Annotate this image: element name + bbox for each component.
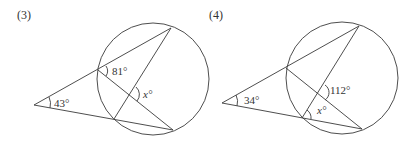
figure-3-unknown-angle: x° [142, 88, 153, 100]
figure-3: (3) 43° 81° x° [17, 8, 209, 135]
figure-4-chord-a [286, 68, 362, 129]
figure-4-external-angle-arc [236, 95, 238, 106]
figure-4-label: (4) [209, 8, 223, 22]
figure-4: (4) 34° 112° x° [209, 8, 398, 134]
figure-3-upper-angle-arc [106, 66, 108, 76]
figure-3-x-angle-arc [136, 87, 139, 101]
figure-3-circle [97, 23, 209, 135]
figure-3-upper-angle: 81° [112, 65, 127, 77]
figure-3-external-angle: 43° [54, 97, 69, 109]
figure-4-unknown-angle: x° [316, 104, 327, 116]
figure-4-external-angle: 34° [244, 94, 259, 106]
figure-3-chord-a [98, 70, 173, 130]
figure-4-intersection-angle-arc [325, 85, 329, 100]
figure-4-x-angle-arc [307, 110, 311, 119]
figure-4-lower-secant [222, 103, 362, 129]
figure-4-intersection-angle: 112° [330, 84, 351, 96]
figure-3-label: (3) [17, 8, 31, 22]
figure-3-external-angle-arc [49, 97, 51, 108]
geometry-diagram: (3) 43° 81° x° (4) 34° 112° x° [0, 0, 413, 145]
